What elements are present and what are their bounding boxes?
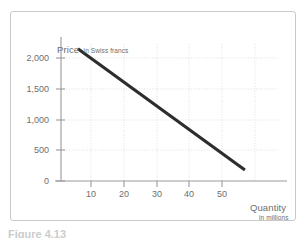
- y-tick-label: 2,000: [15, 54, 49, 63]
- x-tick-label: 20: [112, 190, 136, 199]
- x-axis-title-sub: in millions: [259, 215, 289, 222]
- y-axis-title: Price in Swiss francs: [57, 40, 128, 56]
- x-tick-marks: [91, 181, 222, 187]
- y-tick-label: 1,000: [15, 116, 49, 125]
- figure-caption: Figure 4.13: [8, 228, 66, 238]
- y-tick-label: 500: [15, 146, 49, 155]
- horizontal-gridlines: [61, 58, 279, 150]
- x-tick-label: 10: [79, 190, 103, 199]
- x-axis-title-main: Quantity: [250, 202, 286, 213]
- demand-curve-line: [78, 49, 245, 170]
- x-axis-title: Quantity in millions: [250, 198, 289, 222]
- x-tick-label: 50: [210, 190, 234, 199]
- x-tick-label: 40: [177, 190, 201, 199]
- y-axis-title-sub: in Swiss francs: [84, 47, 129, 54]
- y-tick-label: 1,500: [15, 85, 49, 94]
- y-tick-label: 0: [15, 177, 49, 186]
- x-tick-label: 30: [145, 190, 169, 199]
- figure-frame: Price in Swiss francs Quantity in millio…: [10, 11, 296, 221]
- y-axis-title-main: Price: [57, 44, 79, 55]
